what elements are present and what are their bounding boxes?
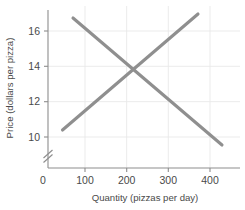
supply-demand-chart: 16 14 12 10 0 100 200 300 400 Quantity (… [0, 0, 245, 210]
x-tick-label-300: 300 [160, 174, 178, 186]
x-tick-label-0: 0 [40, 174, 46, 186]
x-tick-label-200: 200 [118, 174, 136, 186]
y-tick-label-12: 12 [28, 95, 40, 107]
x-tick-label-100: 100 [76, 174, 94, 186]
x-axis-ticks [85, 168, 210, 172]
y-axis-title: Price (dollars per pizza) [4, 38, 15, 139]
x-axis-title: Quantity (pizzas per day) [92, 192, 199, 203]
y-tick-label-10: 10 [28, 131, 40, 143]
gridlines [48, 6, 240, 168]
axes [44, 10, 241, 168]
chart-canvas: 16 14 12 10 0 100 200 300 400 Quantity (… [0, 0, 245, 210]
x-tick-labels: 0 100 200 300 400 [40, 174, 219, 186]
y-tick-label-14: 14 [28, 60, 40, 72]
y-tick-labels: 16 14 12 10 [28, 25, 40, 143]
x-tick-label-400: 400 [201, 174, 219, 186]
curves [63, 14, 223, 145]
y-tick-label-16: 16 [28, 25, 40, 37]
y-axis-ticks [44, 31, 48, 137]
demand-curve [73, 18, 222, 145]
